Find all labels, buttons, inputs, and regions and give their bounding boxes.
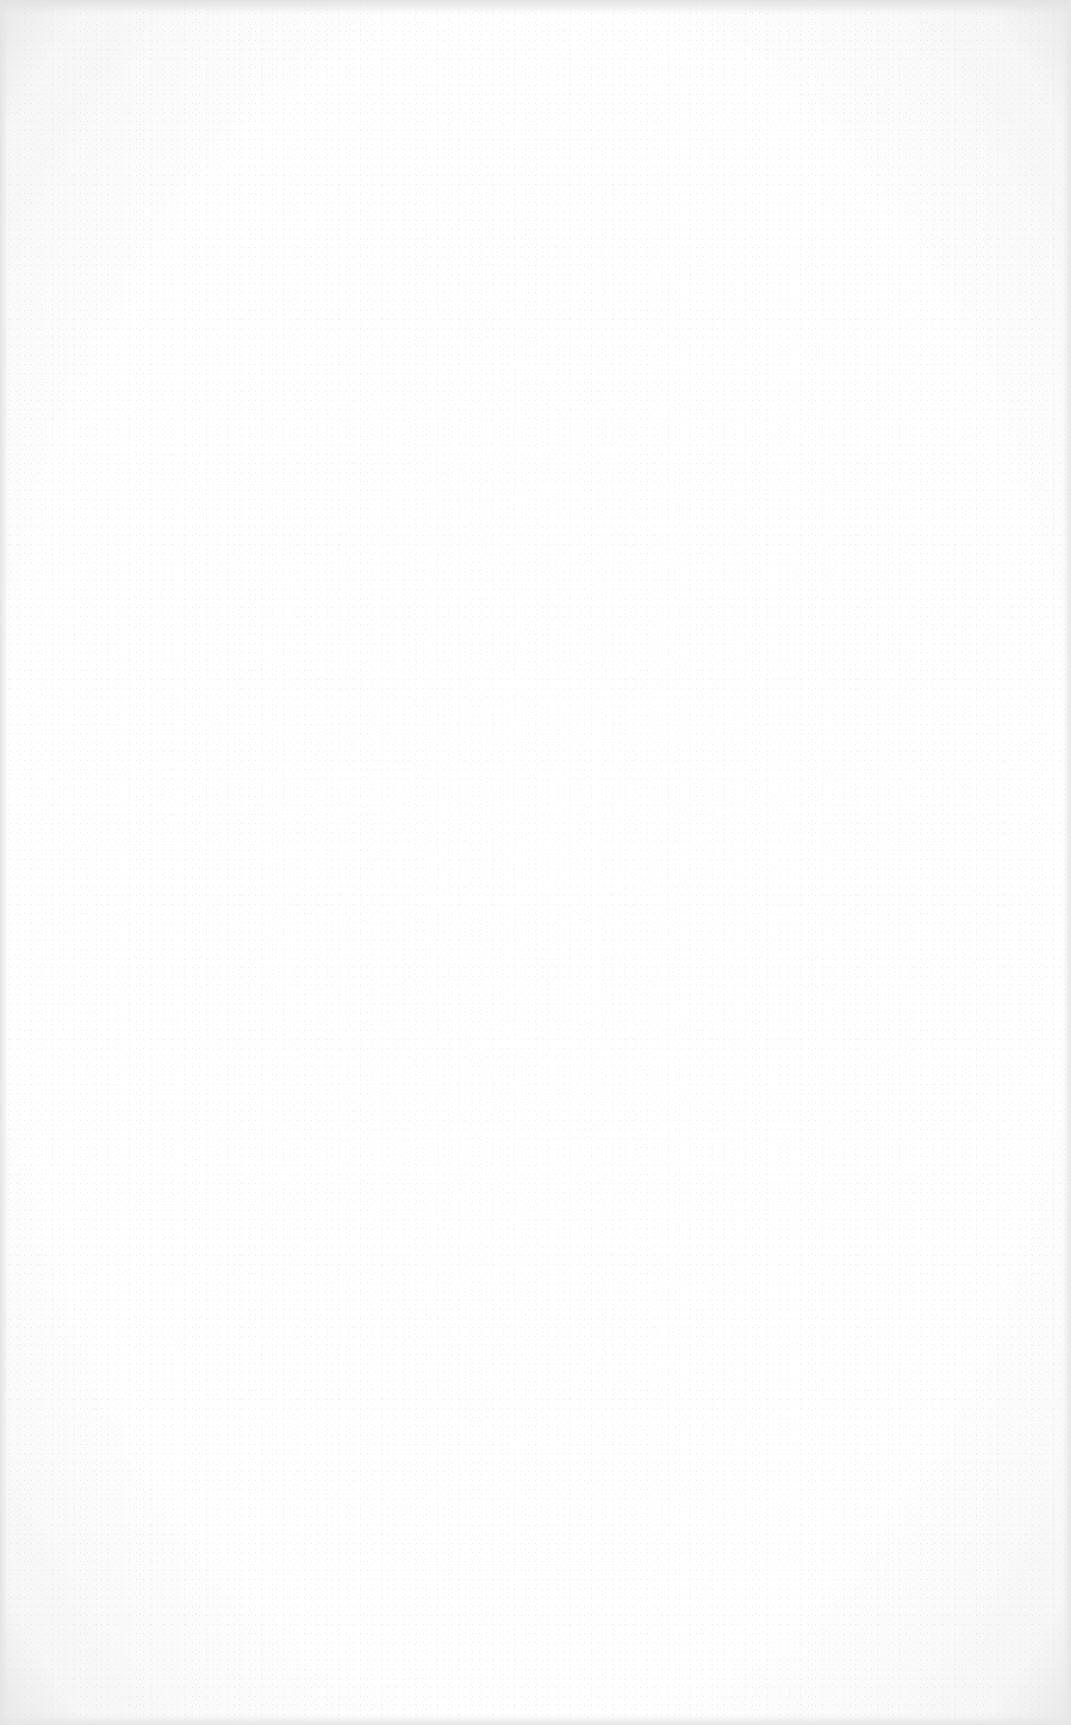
blank-page — [0, 0, 1071, 1725]
page-edge-top — [0, 0, 1071, 14]
page-edge-bottom — [0, 1715, 1071, 1725]
paper-texture — [0, 0, 1071, 1725]
page-edge-left — [0, 0, 8, 1725]
page-edge-right — [1063, 0, 1071, 1725]
